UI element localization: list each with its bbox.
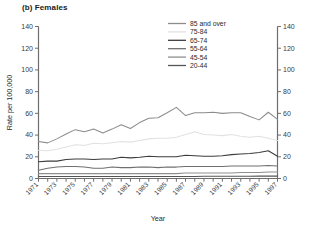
- legend-label-65-74: 65-74: [190, 37, 208, 44]
- y-axis-left-tick-label: 140: [21, 23, 33, 30]
- x-axis-title: Year: [151, 214, 166, 223]
- legend-label-85-and-over: 85 and over: [190, 20, 227, 27]
- legend-label-45-54: 45-54: [190, 54, 208, 61]
- y-axis-title: Rate per 100,000: [5, 75, 14, 131]
- x-axis-tick-label: 1977: [79, 181, 95, 197]
- series-line-55-64: [39, 165, 278, 170]
- series-line-45-54: [39, 172, 278, 174]
- y-axis-right-tick-label: 20: [283, 153, 291, 160]
- y-axis-right-tick-label: 120: [283, 45, 295, 52]
- y-axis-left-tick-label: 20: [25, 153, 33, 160]
- y-axis-right-tick-label: 0: [283, 175, 287, 182]
- x-axis-tick-label: 1979: [97, 181, 113, 197]
- x-axis-tick-label: 1975: [61, 181, 77, 197]
- y-axis-left-tick-label: 60: [25, 110, 33, 117]
- x-axis-tick-label: 1981: [116, 181, 132, 197]
- x-axis-tick-label: 1973: [42, 181, 58, 197]
- y-axis-right-tick-label: 40: [283, 131, 291, 138]
- x-axis-tick-label: 1983: [134, 181, 150, 197]
- x-axis-tick-label: 1971: [24, 181, 40, 197]
- x-axis-tick-label: 1989: [189, 181, 205, 197]
- series-line-65-74: [39, 151, 278, 162]
- y-axis-right-tick-label: 60: [283, 110, 291, 117]
- x-axis-tick-label: 1995: [244, 181, 260, 197]
- y-axis-right-tick-label: 140: [283, 23, 295, 30]
- y-axis-left-tick-label: 120: [21, 45, 33, 52]
- y-axis-right-tick-label: 100: [283, 66, 295, 73]
- y-axis-right-tick-label: 80: [283, 88, 291, 95]
- legend-label-55-64: 55-64: [190, 45, 208, 52]
- y-axis-left-tick-label: 0: [29, 175, 33, 182]
- y-axis-left-tick-label: 100: [21, 66, 33, 73]
- x-axis-tick-label: 1997: [263, 181, 279, 197]
- series-line-85-and-over: [39, 107, 278, 143]
- legend-label-75-84: 75-84: [190, 28, 208, 35]
- chart-figure: (b) Females 0204060801001201400204060801…: [0, 0, 310, 227]
- y-axis-left-tick-label: 80: [25, 88, 33, 95]
- x-axis-tick-label: 1985: [153, 181, 169, 197]
- line-chart-plot: 0204060801001201400204060801001201401971…: [0, 0, 310, 227]
- x-axis-tick-label: 1993: [226, 181, 242, 197]
- series-line-75-84: [39, 132, 278, 151]
- legend-label-20-44: 20-44: [190, 62, 208, 69]
- x-axis-tick-label: 1987: [171, 181, 187, 197]
- x-axis-tick-label: 1991: [208, 181, 224, 197]
- y-axis-left-tick-label: 40: [25, 131, 33, 138]
